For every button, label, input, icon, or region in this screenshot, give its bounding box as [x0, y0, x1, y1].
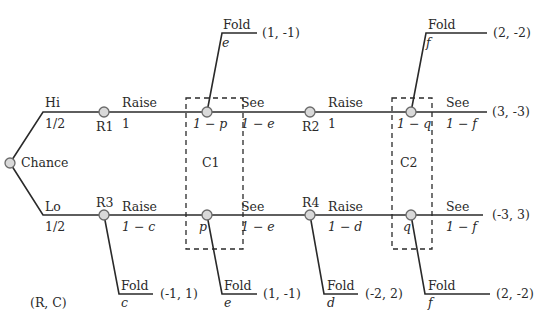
top-c2-see-payoff: (3, -3)	[492, 104, 530, 119]
top-c2-fold: Fold	[428, 17, 456, 32]
top-c1-prob: 1 − p	[193, 116, 227, 131]
top-c1-fold-prob: e	[222, 35, 229, 50]
bottom-r4-fold-prob: d	[327, 295, 335, 310]
bottom-c2-fold-payoff: (2, -2)	[496, 286, 534, 301]
lo-prob: 1/2	[45, 219, 65, 234]
top-c2-prob: 1 − q	[397, 116, 431, 131]
r4-label: R4	[302, 195, 319, 210]
payoff-legend: (R, C)	[30, 295, 67, 310]
lo-label: Lo	[45, 199, 61, 214]
bottom-c2-see-payoff: (-3, 3)	[492, 207, 530, 222]
bottom-r3-fold-payoff: (-1, 1)	[160, 286, 198, 301]
top-r2-action: Raise	[328, 95, 363, 110]
r2-label: R2	[302, 119, 319, 134]
bottom-r4-prob: 1 − d	[328, 219, 362, 234]
top-r2-prob: 1	[328, 116, 336, 131]
bottom-r3-prob: 1 − c	[122, 219, 155, 234]
bottom-c1-fold-payoff: (1, -1)	[263, 286, 301, 301]
top-r1-action: Raise	[122, 95, 157, 110]
chance-label: Chance	[21, 155, 69, 170]
bottom-c1-see-prob: 1 − e	[241, 219, 275, 234]
bottom-c2-see: See	[446, 199, 469, 214]
bottom-c1-fold-prob: e	[224, 295, 231, 310]
bottom-r4-fold: Fold	[327, 278, 355, 293]
node-r1	[99, 107, 109, 117]
top-c2-see-prob: 1 − f	[446, 116, 479, 131]
bottom-c2-prob: q	[403, 219, 411, 234]
top-c1-see-prob: 1 − e	[241, 116, 275, 131]
hi-label: Hi	[45, 95, 60, 110]
bottom-r4-action: Raise	[328, 199, 363, 214]
c2-label: C2	[400, 155, 418, 170]
bottom-r3-fold: Fold	[121, 278, 149, 293]
top-c1-fold-payoff: (1, -1)	[262, 25, 300, 40]
bottom-c1-fold: Fold	[224, 278, 252, 293]
r1-label: R1	[96, 119, 113, 134]
top-c1-fold: Fold	[223, 17, 251, 32]
bottom-r3-action: Raise	[122, 199, 157, 214]
c1-label: C1	[202, 155, 220, 170]
node-r3	[99, 210, 109, 220]
hi-prob: 1/2	[45, 116, 65, 131]
top-c2-fold-prob: f	[425, 35, 433, 50]
bottom-r4-fold-payoff: (-2, 2)	[365, 286, 403, 301]
top-c2-see: See	[446, 95, 469, 110]
top-r1-prob: 1	[122, 116, 130, 131]
game-tree-diagram: Chance Hi 1/2 Lo 1/2 R1 R3 R2 R4 C1 C2 R…	[0, 0, 545, 330]
bottom-c1-prob: p	[199, 219, 207, 234]
top-c1-see: See	[241, 95, 264, 110]
node-r4	[305, 210, 315, 220]
bottom-r3-fold-prob: c	[121, 295, 128, 310]
bottom-c1-see: See	[241, 199, 264, 214]
top-c2-fold-payoff: (2, -2)	[493, 25, 531, 40]
chance-node	[5, 158, 15, 168]
node-r2	[305, 107, 315, 117]
r3-label: R3	[96, 195, 113, 210]
bottom-c2-fold-prob: f	[427, 295, 435, 310]
bottom-c2-see-prob: 1 − f	[446, 219, 479, 234]
bottom-c2-fold: Fold	[428, 278, 456, 293]
